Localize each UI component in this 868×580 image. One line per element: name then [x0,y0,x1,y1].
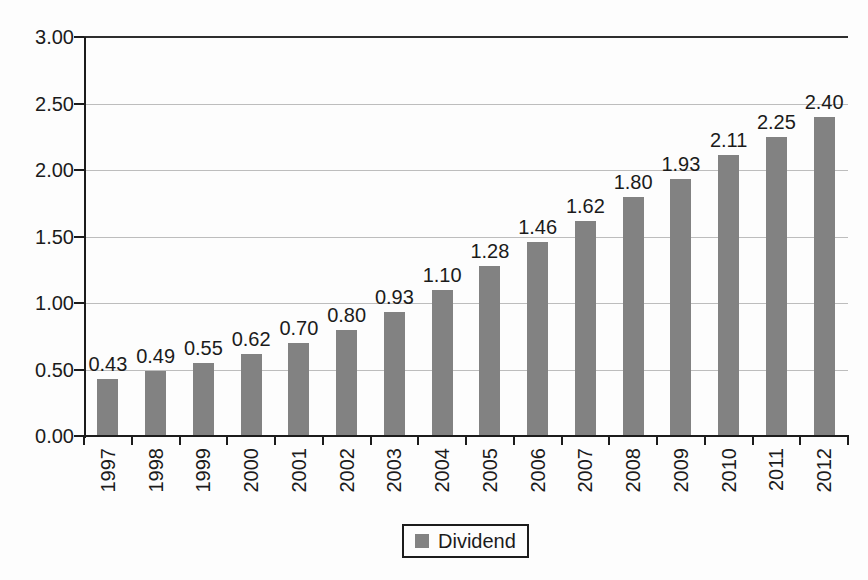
bar-2007 [575,221,596,435]
x-axis-label-2012: 2012 [814,448,834,518]
y-axis-tick [74,302,84,304]
x-axis-tick [226,435,228,445]
x-axis-tick [513,435,515,445]
y-axis-tick [74,36,84,38]
x-axis-label-2004: 2004 [432,448,452,518]
x-axis-label-2010: 2010 [719,448,739,518]
bar-2004 [432,290,453,435]
x-axis-label-1998: 1998 [146,448,166,518]
x-axis-label-2005: 2005 [480,448,500,518]
y-axis-tick-label: 1.50 [10,226,74,248]
y-axis-tick-label: 0.50 [10,359,74,381]
x-axis-label-2001: 2001 [289,448,309,518]
x-axis-tick [131,435,133,445]
x-axis-tick [704,435,706,445]
legend-dividend-swatch-icon [415,534,429,548]
x-axis-tick [465,435,467,445]
bar-value-label-2010: 2.11 [697,130,761,150]
legend: Dividend [402,524,529,558]
legend-label-dividend: Dividend [438,530,516,553]
bar-value-label-2004: 1.10 [410,265,474,285]
x-axis-tick [752,435,754,445]
x-axis-tick [799,435,801,445]
bar-value-label-2006: 1.46 [506,217,570,237]
bar-2000 [241,354,262,435]
x-axis-label-2009: 2009 [671,448,691,518]
bar-2003 [384,312,405,435]
bar-2005 [479,266,500,435]
y-axis-line [84,37,86,438]
bar-2012 [814,117,835,435]
bar-1998 [145,371,166,435]
y-axis-tick-label: 0.00 [10,425,74,447]
bar-value-label-2002: 0.80 [315,305,379,325]
x-axis-label-2000: 2000 [241,448,261,518]
bar-value-label-2007: 1.62 [553,196,617,216]
bar-value-label-2011: 2.25 [744,112,808,132]
x-axis-tick [322,435,324,445]
x-axis-tick [847,435,849,445]
bar-2009 [670,179,691,435]
x-axis-label-2011: 2011 [766,448,786,518]
x-axis-label-2002: 2002 [337,448,357,518]
x-axis-tick [608,435,610,445]
x-axis-tick [656,435,658,445]
bar-1997 [97,379,118,435]
x-axis-label-2006: 2006 [528,448,548,518]
bar-value-label-2008: 1.80 [601,172,665,192]
x-axis-tick [179,435,181,445]
y-axis-tick [74,236,84,238]
x-axis-label-2003: 2003 [384,448,404,518]
bar-1999 [193,363,214,435]
bar-2010 [718,155,739,435]
x-axis-tick [417,435,419,445]
bar-2011 [766,137,787,435]
bar-value-label-2003: 0.93 [362,287,426,307]
x-axis-label-1999: 1999 [193,448,213,518]
y-axis-tick-label: 2.50 [10,93,74,115]
bar-2008 [623,197,644,435]
x-axis-label-2008: 2008 [623,448,643,518]
x-axis-tick [561,435,563,445]
bar-2002 [336,330,357,435]
plot-area: 0.000.501.001.502.002.503.000.430.490.55… [0,0,868,580]
x-axis-tick [83,435,85,445]
gridline [84,104,848,105]
bar-value-label-2009: 1.93 [649,154,713,174]
y-axis-tick-label: 3.00 [10,26,74,48]
bar-value-label-2005: 1.28 [458,241,522,261]
bar-2006 [527,242,548,435]
y-axis-tick-label: 1.00 [10,292,74,314]
x-axis-label-2007: 2007 [575,448,595,518]
x-axis-label-1997: 1997 [98,448,118,518]
bar-value-label-2012: 2.40 [792,92,856,112]
y-axis-tick-label: 2.00 [10,159,74,181]
x-axis-tick [274,435,276,445]
dividend-bar-chart: 0.000.501.001.502.002.503.000.430.490.55… [0,0,868,580]
y-axis-tick [74,103,84,105]
plot-top-border [84,36,848,38]
y-axis-tick [74,369,84,371]
x-axis-tick [370,435,372,445]
y-axis-tick [74,169,84,171]
bar-2001 [288,343,309,435]
